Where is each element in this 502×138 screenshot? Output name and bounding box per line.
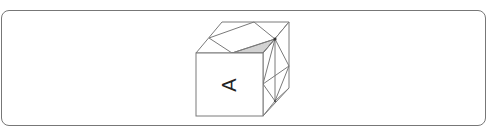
right-face <box>263 22 289 116</box>
front-face: A <box>196 53 263 116</box>
node-bottom <box>274 100 276 102</box>
cube-diagram: A <box>0 0 502 138</box>
node-top <box>273 37 276 40</box>
front-face-label: A <box>218 78 240 92</box>
